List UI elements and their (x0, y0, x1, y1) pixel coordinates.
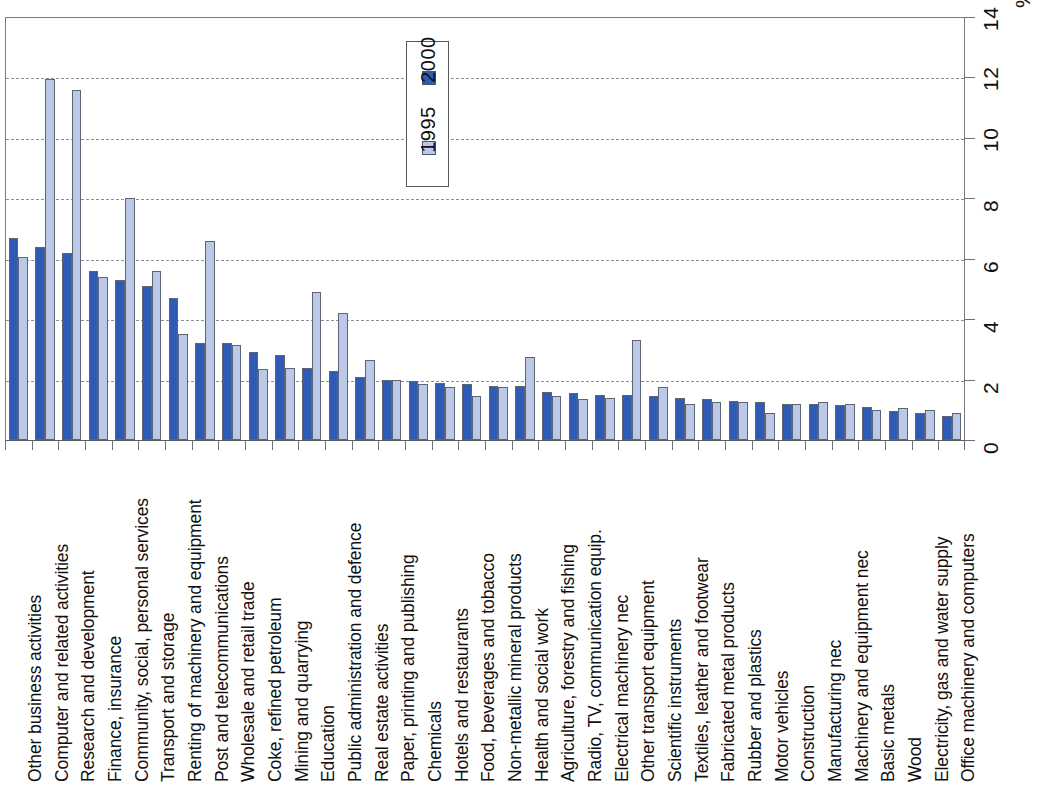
category-label: Paper, printing and publishing (398, 554, 419, 782)
bar-group (325, 17, 352, 440)
bar-2000 (569, 393, 579, 440)
x-tick (565, 441, 566, 450)
category-label: Radio, TV, communication equip. (585, 529, 606, 782)
bar-1995 (845, 404, 855, 440)
y-axis-tick-label: 10 (979, 127, 1003, 151)
bar-2000 (462, 384, 472, 440)
bar-2000 (942, 416, 952, 440)
y-axis-tick-label: 0 (979, 442, 1003, 454)
bar-2000 (35, 247, 45, 440)
bar-group (778, 17, 805, 440)
bar-1995 (18, 257, 28, 440)
bar-2000 (195, 343, 205, 440)
bar-1995 (658, 387, 668, 440)
x-tick (352, 441, 353, 450)
category-label: Other transport equipment (638, 580, 659, 782)
bar-group (218, 17, 245, 440)
x-tick (245, 441, 246, 450)
x-tick (272, 441, 273, 450)
legend-label: 1995 (417, 106, 440, 153)
bar-2000 (249, 352, 259, 440)
y-axis-tick-label: 8 (979, 200, 1003, 212)
x-tick (858, 441, 859, 450)
bar-group (245, 17, 272, 440)
bar-2000 (915, 413, 925, 440)
bar-2000 (142, 286, 152, 440)
category-label: Community, social, personal services (132, 498, 153, 782)
legend: 20001995 (406, 41, 449, 187)
x-tick (672, 441, 673, 450)
bar-1995 (925, 410, 935, 440)
bar-2000 (302, 368, 312, 441)
x-tick (32, 441, 33, 450)
category-label: Chemicals (425, 701, 446, 782)
x-tick (912, 441, 913, 450)
bar-1995 (685, 404, 695, 440)
bar-group (912, 17, 939, 440)
x-tick (938, 441, 939, 450)
x-tick (778, 441, 779, 450)
y-tick-0 (965, 440, 975, 441)
bar-1995 (418, 384, 428, 440)
bar-1995 (365, 360, 375, 440)
bar-2000 (435, 383, 445, 440)
y-tick-4 (965, 319, 975, 320)
bar-2000 (755, 402, 765, 440)
x-tick (512, 441, 513, 450)
bar-1995 (952, 413, 962, 440)
y-axis-tick-label: 6 (979, 261, 1003, 273)
category-label: Scientific instruments (665, 619, 686, 782)
bar-2000 (729, 401, 739, 440)
bar-2000 (649, 396, 659, 440)
x-tick (485, 441, 486, 450)
bar-2000 (62, 253, 72, 440)
bar-1995 (178, 334, 188, 440)
x-tick (805, 441, 806, 450)
bar-2000 (409, 381, 419, 440)
bar-2000 (675, 398, 685, 440)
bar-1995 (45, 79, 55, 440)
bar-group (565, 17, 592, 440)
bar-2000 (489, 386, 499, 440)
bar-group (112, 17, 139, 440)
bar-group (298, 17, 325, 440)
y-axis-tick-label: 12 (979, 67, 1003, 91)
bar-2000 (889, 411, 899, 440)
category-label: Renting of machinery and equipment (185, 499, 206, 782)
bar-1995 (258, 369, 268, 440)
bar-group (725, 17, 752, 440)
category-label: Hotels and restaurants (452, 608, 473, 782)
bar-2000 (275, 355, 285, 440)
category-label: Wood (905, 737, 926, 782)
bar-1995 (232, 345, 242, 440)
y-tick-14 (965, 17, 975, 18)
bar-group (138, 17, 165, 440)
x-axis-category-labels: Other business activitiesComputer and re… (5, 452, 965, 788)
bar-group (832, 17, 859, 440)
category-label: Education (318, 705, 339, 782)
bar-group (32, 17, 59, 440)
bar-1995 (98, 277, 108, 440)
x-tick (832, 441, 833, 450)
bar-1995 (872, 410, 882, 440)
y-tick-2 (965, 380, 975, 381)
category-label: Post and telecommunications (212, 556, 233, 782)
bar-2000 (222, 343, 232, 440)
bar-2000 (862, 407, 872, 440)
bar-2000 (115, 280, 125, 440)
y-axis-tick-label: 14 (979, 7, 1003, 31)
bar-1995 (898, 408, 908, 440)
y-tick-8 (965, 198, 975, 199)
bar-group (885, 17, 912, 440)
bar-2000 (355, 377, 365, 440)
bar-1995 (205, 241, 215, 440)
x-tick (85, 441, 86, 450)
bar-2000 (835, 405, 845, 440)
category-label: Motor vehicles (772, 671, 793, 782)
x-tick (378, 441, 379, 450)
category-label: Mining and quarrying (292, 621, 313, 782)
x-tick (58, 441, 59, 450)
bar-1995 (712, 402, 722, 440)
category-label: Wholesale and retail trade (238, 581, 259, 782)
bar-group (538, 17, 565, 440)
